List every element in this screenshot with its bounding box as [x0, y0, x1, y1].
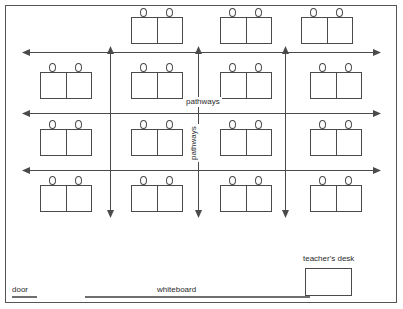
pathways-horizontal-label: pathways [184, 97, 222, 107]
desk-surface [220, 129, 272, 156]
desk-divider [66, 130, 67, 155]
desk-unit[interactable] [301, 8, 353, 44]
student-head-icon [319, 120, 326, 129]
desk-surface [131, 17, 183, 44]
desk-unit[interactable] [220, 176, 272, 212]
desk-divider [336, 73, 337, 98]
student-head-icon [140, 8, 147, 17]
desk-divider [336, 130, 337, 155]
student-head-icon [229, 176, 236, 185]
whiteboard-wall-line [85, 296, 310, 298]
student-head-icon [75, 176, 82, 185]
student-head-icon [49, 120, 56, 129]
desk-divider [66, 73, 67, 98]
student-head-icon [229, 63, 236, 72]
desk-seats [40, 176, 92, 185]
student-head-icon [49, 176, 56, 185]
desk-surface [220, 72, 272, 99]
desk-surface [131, 129, 183, 156]
desk-surface [40, 129, 92, 156]
desk-unit[interactable] [131, 176, 183, 212]
desk-unit[interactable] [310, 63, 362, 99]
student-head-icon [140, 120, 147, 129]
desk-surface [40, 185, 92, 212]
whiteboard-label: whiteboard [155, 285, 198, 295]
student-head-icon [140, 176, 147, 185]
teachers-desk-label: teacher's desk [301, 254, 356, 264]
desk-surface [131, 72, 183, 99]
desk-seats [131, 120, 183, 129]
desk-unit[interactable] [40, 120, 92, 156]
desk-unit[interactable] [40, 176, 92, 212]
student-head-icon [229, 8, 236, 17]
student-head-icon [49, 63, 56, 72]
desk-surface [40, 72, 92, 99]
desk-divider [157, 130, 158, 155]
desk-unit[interactable] [310, 176, 362, 212]
desk-unit[interactable] [131, 8, 183, 44]
student-head-icon [166, 8, 173, 17]
desk-seats [220, 176, 272, 185]
desk-divider [157, 73, 158, 98]
student-head-icon [166, 176, 173, 185]
desk-divider [336, 186, 337, 211]
student-head-icon [319, 63, 326, 72]
desk-seats [40, 120, 92, 129]
desk-seats [301, 8, 353, 17]
student-head-icon [319, 176, 326, 185]
desk-surface [310, 72, 362, 99]
desk-seats [310, 63, 362, 72]
door-wall-line [12, 296, 37, 298]
desk-divider [157, 186, 158, 211]
desk-seats [220, 120, 272, 129]
desk-divider [66, 186, 67, 211]
student-head-icon [345, 63, 352, 72]
student-head-icon [345, 176, 352, 185]
desk-seats [40, 63, 92, 72]
desk-surface [220, 17, 272, 44]
student-head-icon [345, 120, 352, 129]
desk-surface [310, 185, 362, 212]
door-label: door [10, 285, 30, 295]
desk-divider [246, 130, 247, 155]
desk-unit[interactable] [220, 8, 272, 44]
desk-seats [131, 8, 183, 17]
desk-divider [246, 73, 247, 98]
student-head-icon [166, 120, 173, 129]
student-head-icon [75, 63, 82, 72]
desk-unit[interactable] [131, 63, 183, 99]
desk-divider [246, 186, 247, 211]
teachers-desk[interactable] [305, 268, 352, 296]
student-head-icon [140, 63, 147, 72]
desk-surface [131, 185, 183, 212]
desk-unit[interactable] [220, 120, 272, 156]
student-head-icon [166, 63, 173, 72]
student-head-icon [75, 120, 82, 129]
desk-seats [310, 120, 362, 129]
student-head-icon [255, 176, 262, 185]
desk-divider [246, 18, 247, 43]
pathways-vertical-label: pathways [189, 124, 199, 162]
student-head-icon [310, 8, 317, 17]
student-head-icon [229, 120, 236, 129]
desk-seats [310, 176, 362, 185]
desk-divider [157, 18, 158, 43]
desk-seats [131, 63, 183, 72]
desk-surface [301, 17, 353, 44]
desk-seats [131, 176, 183, 185]
desk-unit[interactable] [131, 120, 183, 156]
desk-surface [220, 185, 272, 212]
student-head-icon [336, 8, 343, 17]
desk-seats [220, 8, 272, 17]
student-head-icon [255, 63, 262, 72]
desk-seats [220, 63, 272, 72]
student-head-icon [255, 120, 262, 129]
student-head-icon [255, 8, 262, 17]
classroom-diagram: pathways pathways door whiteboard teache… [0, 0, 403, 309]
desk-unit[interactable] [310, 120, 362, 156]
desk-unit[interactable] [220, 63, 272, 99]
desk-divider [327, 18, 328, 43]
desk-unit[interactable] [40, 63, 92, 99]
desk-surface [310, 129, 362, 156]
